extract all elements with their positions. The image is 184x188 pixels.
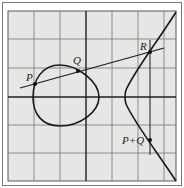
point-q — [76, 69, 80, 73]
label-p: P — [25, 71, 33, 83]
point-r — [148, 50, 152, 54]
point-p-plus-q — [148, 138, 152, 142]
label-q: Q — [73, 54, 81, 66]
point-p — [33, 82, 37, 86]
elliptic-curve-diagram: P Q R P+Q — [0, 0, 184, 188]
label-p-plus-q: P+Q — [121, 134, 144, 146]
label-r: R — [139, 40, 147, 52]
